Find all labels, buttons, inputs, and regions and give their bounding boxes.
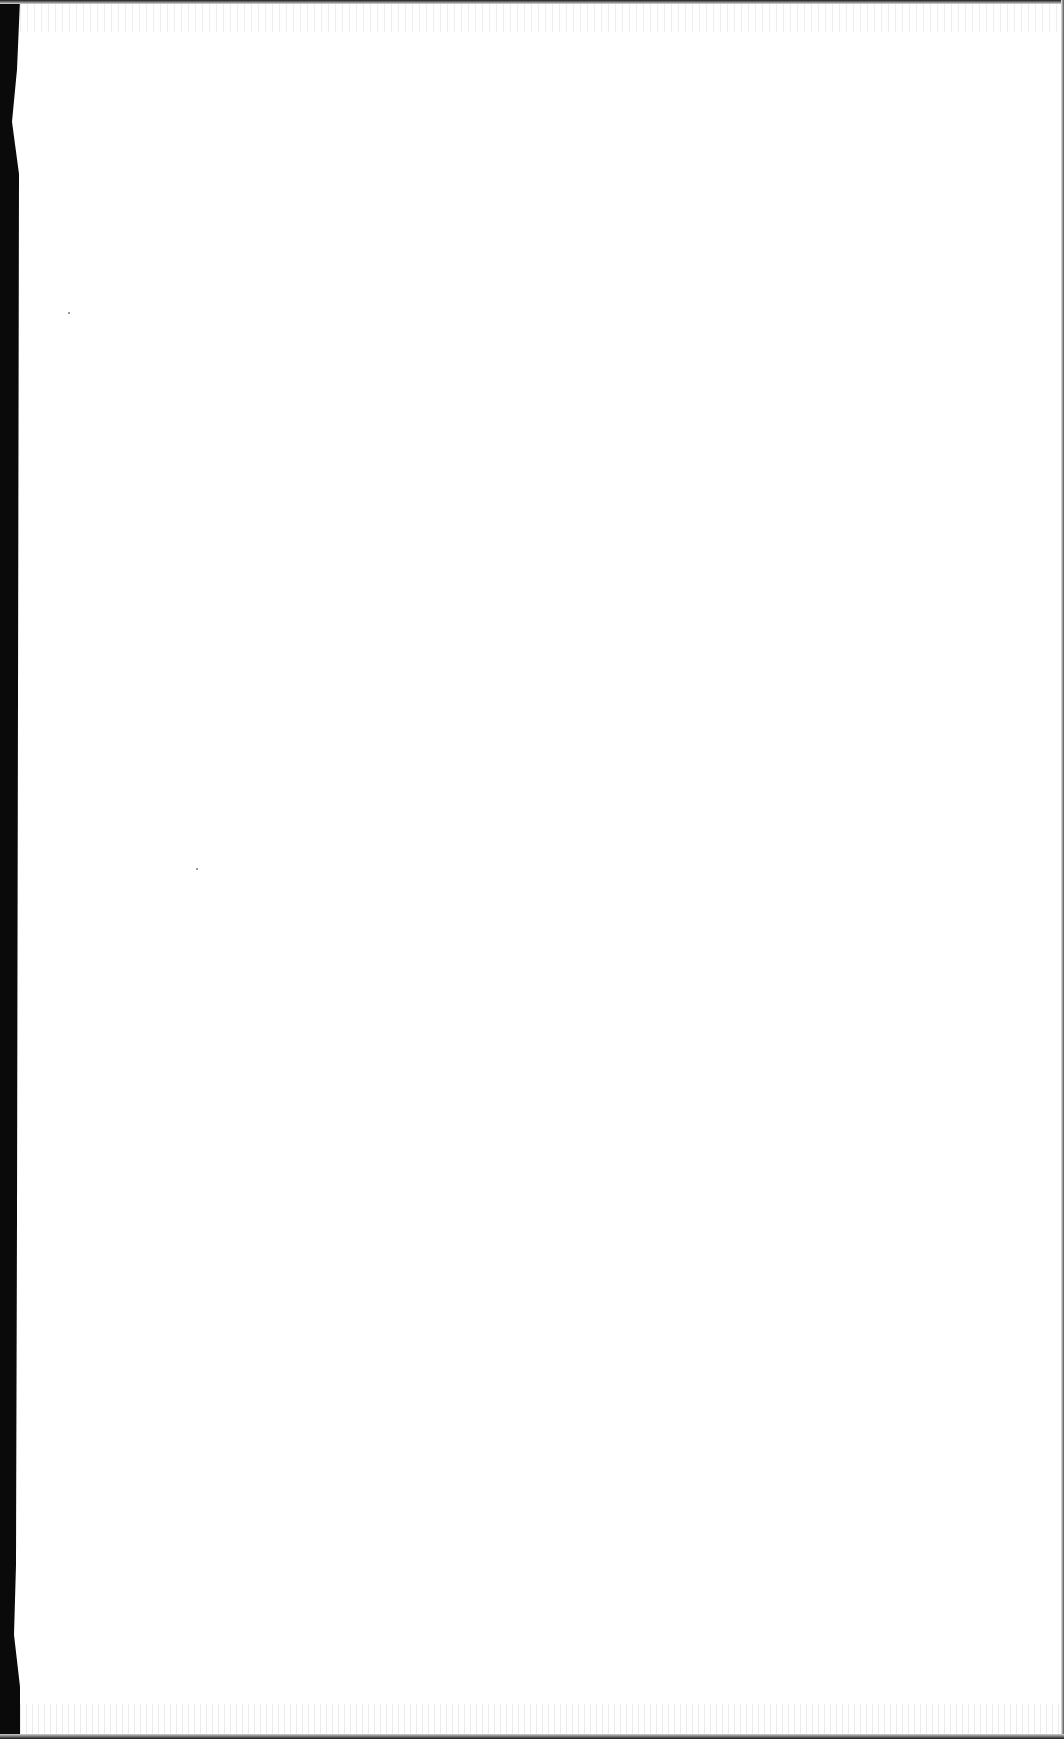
scan-noise-bottom (20, 1704, 1060, 1734)
scan-left-border (0, 0, 20, 1739)
dust-speck (68, 312, 70, 314)
blank-scanned-page (0, 0, 1064, 1739)
scan-noise-top (20, 4, 1060, 32)
scan-bottom-border (0, 1734, 1064, 1739)
dust-speck (196, 868, 198, 870)
